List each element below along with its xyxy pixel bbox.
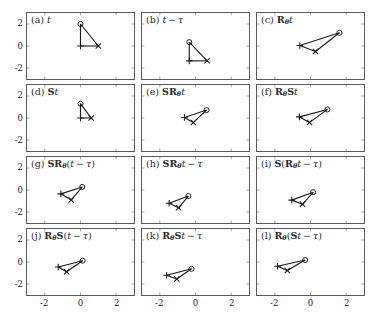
panel-expression: SRθ(t − τ) (48, 158, 95, 169)
plus-marker (274, 263, 281, 270)
y-tick-label: -2 (0, 208, 23, 217)
panel-tag: (i) (261, 158, 271, 169)
panel-expression: St (48, 86, 59, 97)
y-tick-label: -2 (0, 64, 23, 73)
x-tick-label: 0 (71, 299, 91, 308)
triangle-edge (189, 42, 207, 61)
x-marker (191, 120, 196, 125)
panel-expression: RθSt − τ (162, 230, 202, 241)
x-tick-label: 2 (107, 299, 127, 308)
panel-tag: (a) (31, 14, 44, 25)
x-marker (64, 269, 69, 274)
plus-marker (77, 115, 84, 122)
triangle-edge (315, 33, 339, 52)
panel-tag: (h) (146, 158, 160, 169)
plus-marker (77, 43, 84, 50)
x-tick-label: -2 (34, 299, 54, 308)
y-tick-label: 0 (0, 186, 23, 195)
panel-tag: (c) (261, 14, 274, 25)
plus-marker (296, 114, 303, 121)
panel-expression: Rθ(St − τ) (274, 230, 321, 241)
y-tick-label: 2 (0, 91, 23, 100)
panel-expression: Rθt (277, 14, 293, 25)
panel-expression: t (47, 14, 51, 25)
panel-i: (i)S(Rθt − τ) (256, 156, 365, 224)
panel-label: (l)Rθ(St − τ) (261, 230, 322, 244)
panel-d: (d)St (26, 84, 135, 152)
panel-expression: RθS(t − τ) (44, 230, 91, 241)
y-tick-label: 0 (0, 42, 23, 51)
panel-tag: (l) (261, 230, 271, 241)
plus-marker (166, 200, 173, 207)
panel-expression: SRθt − τ (163, 158, 203, 169)
panel-expression: SRθt (162, 86, 185, 97)
panel-tag: (e) (146, 86, 159, 97)
panel-j: (j)RθS(t − τ) (26, 228, 135, 296)
x-marker (285, 268, 290, 273)
panel-tag: (k) (146, 230, 159, 241)
panel-tag: (d) (31, 86, 45, 97)
panel-label: (i)S(Rθt − τ) (261, 158, 322, 172)
x-tick-label: 0 (186, 299, 206, 308)
panel-label: (d)St (31, 86, 58, 97)
panel-h: (h)SRθt − τ (141, 156, 250, 224)
plus-marker (186, 58, 193, 65)
x-tick-label: 2 (337, 299, 357, 308)
plus-marker (58, 191, 65, 198)
x-tick-label: 0 (301, 299, 321, 308)
panel-tag: (b) (146, 14, 160, 25)
panel-tag: (f) (261, 86, 272, 97)
triangle-edge (300, 33, 340, 46)
x-tick-label: 2 (222, 299, 242, 308)
y-tick-label: 0 (0, 114, 23, 123)
x-marker (174, 276, 179, 281)
panel-l: (l)Rθ(St − τ) (256, 228, 365, 296)
x-marker (300, 202, 305, 207)
panel-label: (a)t (31, 14, 51, 25)
panel-k: (k)RθSt − τ (141, 228, 250, 296)
panel-label: (h)SRθt − τ (146, 158, 203, 172)
panel-label: (j)RθS(t − τ) (31, 230, 92, 244)
panel-f: (f)RθSt (256, 84, 365, 152)
panel-label: (k)RθSt − τ (146, 230, 202, 244)
plus-marker (181, 114, 188, 121)
y-tick-label: 2 (0, 235, 23, 244)
plus-marker (55, 264, 62, 271)
y-tick-label: 2 (0, 163, 23, 172)
panel-e: (e)SRθt (141, 84, 250, 152)
panel-expression: t − τ (163, 14, 184, 25)
panel-label: (f)RθSt (261, 86, 298, 100)
x-marker (176, 205, 181, 210)
x-marker (307, 120, 312, 125)
panel-expression: S(Rθt − τ) (274, 158, 321, 169)
panel-c: (c)Rθt (256, 12, 365, 80)
triangle-edge (81, 24, 99, 46)
figure-panel-grid: (a)t(b)t − τ(c)Rθt(d)St(e)SRθt(f)RθSt(g)… (0, 0, 380, 322)
panel-expression: RθSt (275, 86, 298, 97)
y-tick-label: 0 (0, 258, 23, 267)
panel-tag: (j) (31, 230, 41, 241)
panel-label: (g)SRθ(t − τ) (31, 158, 95, 172)
triangle-edge (300, 45, 316, 51)
panel-b: (b)t − τ (141, 12, 250, 80)
panel-g: (g)SRθ(t − τ) (26, 156, 135, 224)
y-tick-label: 2 (0, 19, 23, 28)
panel-label: (e)SRθt (146, 86, 185, 100)
y-tick-label: -2 (0, 280, 23, 289)
plus-marker (163, 272, 170, 279)
panel-label: (c)Rθt (261, 14, 293, 28)
panel-a: (a)t (26, 12, 135, 80)
panel-tag: (g) (31, 158, 45, 169)
x-tick-label: -2 (264, 299, 284, 308)
plus-marker (296, 42, 303, 49)
plus-marker (288, 197, 295, 204)
panel-label: (b)t − τ (146, 14, 183, 25)
y-tick-label: -2 (0, 136, 23, 145)
x-marker (69, 197, 74, 202)
x-tick-label: -2 (149, 299, 169, 308)
x-marker (313, 49, 318, 54)
